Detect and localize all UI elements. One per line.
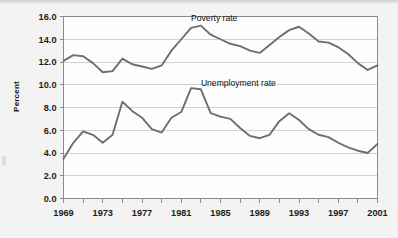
x-tick-label-2001: 2001: [367, 208, 387, 218]
x-tick-label-1993: 1993: [289, 208, 309, 218]
x-tick-label-1985: 1985: [210, 208, 230, 218]
y-tick-label-8.0: 8.0: [44, 103, 57, 113]
x-tick-label-1989: 1989: [250, 208, 270, 218]
chart-figure: Percent 0.02.04.06.08.010.012.014.016.01…: [0, 0, 398, 238]
y-tick-label-4.0: 4.0: [44, 148, 57, 158]
x-tick-label-1969: 1969: [53, 208, 73, 218]
y-tick-label-12.0: 12.0: [39, 57, 57, 67]
x-tick-label-1997: 1997: [328, 208, 348, 218]
x-tick-label-1977: 1977: [132, 208, 152, 218]
y-tick-label-16.0: 16.0: [39, 12, 57, 22]
y-tick-label-2.0: 2.0: [44, 171, 57, 181]
annotation-unemployment-rate: Unemployment rate: [201, 78, 276, 88]
y-tick-label-0.0: 0.0: [44, 194, 57, 204]
line-chart-plot: 0.02.04.06.08.010.012.014.016.0196919731…: [0, 0, 398, 238]
x-tick-label-1973: 1973: [93, 208, 113, 218]
y-tick-label-6.0: 6.0: [44, 126, 57, 136]
annotation-poverty-rate: Poverty rate: [191, 13, 238, 23]
x-tick-label-1981: 1981: [171, 208, 191, 218]
y-tick-label-14.0: 14.0: [39, 35, 57, 45]
y-tick-label-10.0: 10.0: [39, 80, 57, 90]
